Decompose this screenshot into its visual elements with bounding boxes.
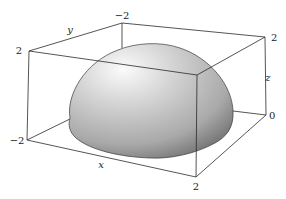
y-tick-label-2: 2 — [16, 45, 22, 56]
box-edge-top-left — [29, 23, 122, 51]
plot-canvas: 2 −2 2 0 −2 2 y z x — [0, 0, 286, 199]
box-edge-back-bottom — [233, 111, 266, 115]
y-tick-label-neg2: −2 — [115, 10, 130, 21]
y-axis-label: y — [66, 24, 73, 35]
z-axis-label: z — [264, 72, 271, 83]
x-tick-label-neg2: −2 — [10, 135, 25, 146]
hemisphere-surface — [69, 44, 233, 158]
box-edge-back-top — [122, 23, 265, 37]
x-tick-label-2: 2 — [193, 181, 199, 192]
x-axis-label: x — [98, 159, 104, 170]
box-edge-front-left-vertical — [27, 51, 29, 140]
z-tick-label-0: 0 — [269, 110, 275, 121]
box-edge-top-right — [197, 37, 265, 75]
box-edge-left-bottom — [27, 118, 72, 140]
z-tick-label-2: 2 — [271, 32, 277, 43]
hemisphere-3d-plot: 2 −2 2 0 −2 2 y z x — [0, 0, 286, 199]
